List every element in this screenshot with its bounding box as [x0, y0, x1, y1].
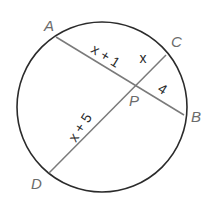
point-label-a: A: [43, 17, 54, 34]
segment-label-cp: x: [140, 50, 147, 66]
intersecting-chords-diagram: A B C D P x + 1 x 4 x + 5: [0, 0, 213, 212]
diagram-canvas: A B C D P x + 1 x 4 x + 5: [0, 0, 213, 212]
point-label-p: P: [129, 92, 139, 109]
point-label-c: C: [171, 33, 182, 50]
segment-label-ap: x + 1: [88, 41, 123, 71]
chord-cd: [49, 55, 166, 173]
point-label-b: B: [191, 108, 201, 125]
point-label-d: D: [31, 175, 42, 192]
segment-label-pb: 4: [155, 80, 170, 98]
segment-label-dp: x + 5: [65, 110, 95, 145]
